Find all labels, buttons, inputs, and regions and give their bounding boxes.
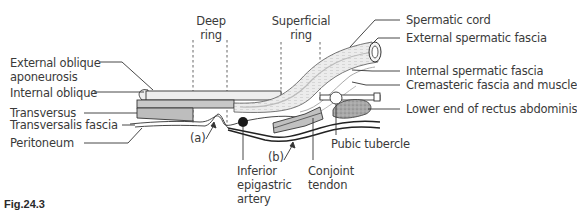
label-inferior-epigastric-line1: Inferior — [237, 164, 277, 178]
label-marker-a: (a) — [190, 131, 205, 145]
label-conjoint-tendon-line1: Conjoint — [308, 164, 354, 178]
label-superficial-ring-line2: ring — [268, 28, 334, 42]
internal-oblique-layer — [137, 100, 234, 108]
inferior-epigastric-artery — [238, 117, 248, 127]
deep-ring-lines — [193, 40, 227, 126]
figure-caption: Fig.24.3 — [4, 198, 45, 210]
label-transversalis-fascia: Transversalis fascia — [10, 118, 118, 132]
label-deep-ring-line2: ring — [194, 28, 228, 42]
label-rectus-abdominis: Lower end of rectus abdominis — [406, 102, 577, 116]
label-peritoneum: Peritoneum — [10, 136, 74, 150]
label-external-oblique: External oblique — [10, 56, 101, 70]
label-marker-b: (b) — [268, 150, 284, 164]
label-pubic-tubercle: Pubic tubercle — [331, 137, 410, 151]
label-internal-spermatic-fascia: Internal spermatic fascia — [406, 64, 543, 78]
label-inferior-epigastric-line2: epigastric — [237, 178, 292, 192]
external-oblique-aponeurosis-layer — [139, 90, 281, 100]
label-aponeurosis: aponeurosis — [10, 70, 78, 84]
label-deep-ring-line1: Deep — [194, 14, 228, 28]
transversus-layer — [137, 108, 193, 121]
label-external-spermatic-fascia: External spermatic fascia — [406, 31, 547, 45]
label-spermatic-cord: Spermatic cord — [406, 13, 491, 27]
label-inferior-epigastric-line3: artery — [237, 192, 271, 206]
label-internal-oblique: Internal oblique — [10, 86, 97, 100]
label-conjoint-tendon-line2: tendon — [308, 178, 347, 192]
label-cremasteric-fascia: Cremasteric fascia and muscle — [406, 78, 577, 92]
label-superficial-ring-line1: Superficial — [268, 14, 334, 28]
